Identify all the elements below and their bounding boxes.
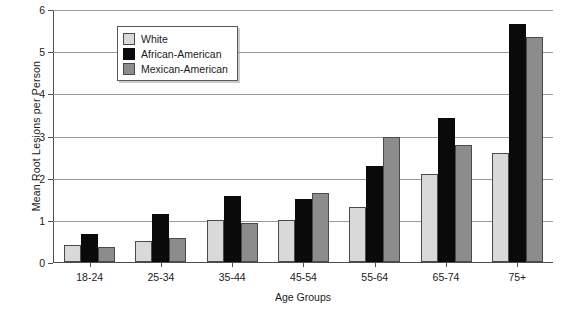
bar[interactable] xyxy=(295,199,312,262)
bar-chart-figure: Mean Root Lesions per Person 0123456 18-… xyxy=(0,0,570,321)
y-tick-label: 6 xyxy=(27,5,45,15)
y-tick-label: 3 xyxy=(27,132,45,142)
x-tick-label: 35-44 xyxy=(197,271,268,283)
bar[interactable] xyxy=(169,238,186,262)
x-tick-label: 25-34 xyxy=(125,271,196,283)
legend-swatch xyxy=(123,33,135,45)
y-tick-label: 2 xyxy=(27,174,45,184)
x-tick-label: 65-74 xyxy=(410,271,481,283)
legend-label: White xyxy=(141,33,168,45)
bar[interactable] xyxy=(152,214,169,262)
bar[interactable] xyxy=(98,247,115,262)
legend-label: Mexican-American xyxy=(141,63,228,75)
legend-swatch xyxy=(123,63,135,75)
y-tick-mark xyxy=(48,179,53,180)
bar[interactable] xyxy=(81,234,98,262)
bar[interactable] xyxy=(492,153,509,262)
y-tick-label: 0 xyxy=(27,258,45,268)
legend-item[interactable]: Mexican-American xyxy=(123,61,228,76)
legend-swatch xyxy=(123,48,135,60)
bar[interactable] xyxy=(509,24,526,262)
legend-label: African-American xyxy=(141,48,222,60)
x-axis-title: Age Groups xyxy=(53,291,553,303)
bar[interactable] xyxy=(312,193,329,262)
y-tick-mark xyxy=(48,94,53,95)
y-tick-mark xyxy=(48,52,53,53)
legend: WhiteAfrican-AmericanMexican-American xyxy=(117,26,238,81)
bar[interactable] xyxy=(349,207,366,262)
x-tick-label: 55-64 xyxy=(339,271,410,283)
bar[interactable] xyxy=(224,196,241,262)
bar-group: 45-54 xyxy=(268,10,339,262)
x-tick-mark xyxy=(446,262,447,267)
x-tick-mark xyxy=(90,262,91,267)
y-tick-mark xyxy=(48,263,53,264)
y-tick-mark xyxy=(48,137,53,138)
x-tick-label: 18-24 xyxy=(54,271,125,283)
y-tick-mark xyxy=(48,221,53,222)
x-tick-mark xyxy=(375,262,376,267)
bar[interactable] xyxy=(526,37,543,262)
bar[interactable] xyxy=(421,174,438,262)
bar-group: 75+ xyxy=(482,10,553,262)
legend-item[interactable]: African-American xyxy=(123,46,228,61)
bar[interactable] xyxy=(207,220,224,262)
x-tick-label: 75+ xyxy=(482,271,553,283)
y-tick-label: 5 xyxy=(27,47,45,57)
bar[interactable] xyxy=(241,223,258,262)
bar-group: 65-74 xyxy=(410,10,481,262)
y-tick-label: 4 xyxy=(27,89,45,99)
bar[interactable] xyxy=(438,118,455,262)
bar[interactable] xyxy=(64,245,81,262)
bar[interactable] xyxy=(455,145,472,262)
legend-item[interactable]: White xyxy=(123,31,228,46)
x-tick-mark xyxy=(303,262,304,267)
bar[interactable] xyxy=(383,137,400,262)
bar-group: 55-64 xyxy=(339,10,410,262)
bar[interactable] xyxy=(278,220,295,262)
y-tick-mark xyxy=(48,10,53,11)
x-tick-label: 45-54 xyxy=(268,271,339,283)
y-tick-label: 1 xyxy=(27,216,45,226)
x-tick-mark xyxy=(161,262,162,267)
plot-area: 0123456 18-2425-3435-4445-5455-6465-7475… xyxy=(53,10,553,263)
x-tick-mark xyxy=(232,262,233,267)
bar-group: 18-24 xyxy=(54,10,125,262)
bar[interactable] xyxy=(366,166,383,262)
bar[interactable] xyxy=(135,241,152,262)
x-tick-mark xyxy=(517,262,518,267)
